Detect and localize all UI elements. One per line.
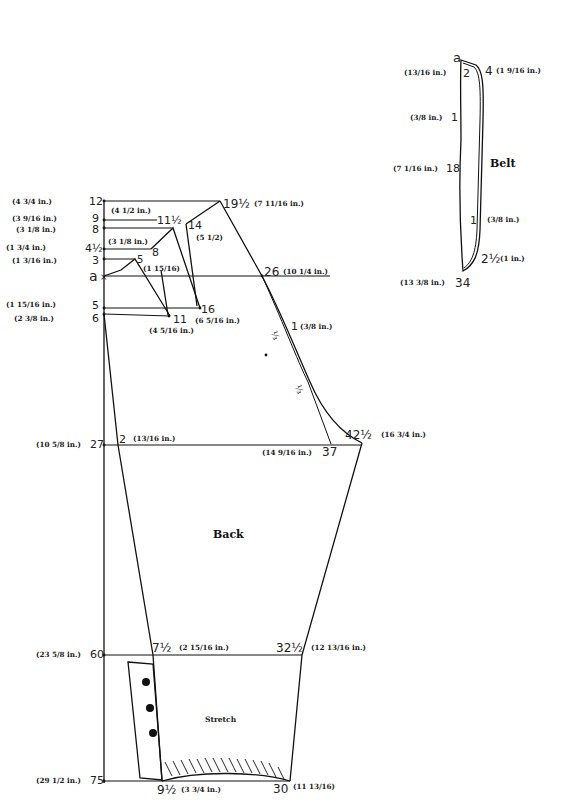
belt-point-a: a	[453, 50, 461, 65]
one-third-mark-1: ⅓	[269, 330, 281, 342]
back-title: Back	[213, 528, 244, 541]
scale-meas-60: (23 5/8 in.)	[36, 650, 81, 659]
belt-point-1-right: 1	[470, 214, 477, 227]
scale-num-a: a	[89, 268, 98, 284]
belt-point-2-5: 2½	[481, 252, 500, 266]
scale-num-8: 8	[92, 223, 99, 236]
outer-leg-seam	[290, 443, 362, 781]
point-19-5: 19½	[223, 197, 250, 211]
point-16: 16	[201, 303, 215, 316]
point-2-meas: (13/16 in.)	[133, 434, 175, 443]
point-11-5-meas: (4 1/2 in.)	[111, 206, 151, 215]
scale-meas-5: (1 15/16 in.)	[6, 300, 56, 309]
belt-point-2-5-meas: (1 in.)	[500, 254, 525, 263]
scale-meas-9: (3 9/16 in.)	[12, 214, 57, 223]
point-1: 1	[291, 320, 298, 333]
button-3	[149, 729, 157, 737]
scale-num-3: 3	[92, 254, 99, 267]
left-scale: (4 3/4 in.) 12 (3 9/16 in.) 9 (3 1/8 in.…	[6, 195, 104, 787]
scale-num-6: 6	[92, 312, 99, 325]
point-8: 8	[152, 246, 159, 259]
one-third-mark-2: ⅓	[293, 384, 305, 396]
scale-num-60: 60	[90, 648, 104, 661]
belt-point-18: 18	[446, 162, 460, 175]
point-14: 14	[188, 219, 202, 232]
stretch-label: Stretch	[205, 715, 237, 724]
point-8-meas: (3 1/8 in.)	[108, 237, 148, 246]
point-30-meas: (11 13/16)	[293, 782, 335, 791]
side-seam-guide	[262, 276, 331, 444]
belt-point-1-left: 1	[451, 111, 458, 124]
belt-piece: a 2 (13/16 in.) 4 (1 9/16 in.) 1 (3/8 in…	[393, 50, 541, 290]
scale-meas-27: (10 5/8 in.)	[36, 440, 81, 449]
point-26-meas: (10 1/4 in.)	[283, 267, 328, 276]
scale-num-75: 75	[90, 774, 104, 787]
scale-meas-12: (4 3/4 in.)	[12, 197, 52, 206]
sewing-pattern-diagram: × (4 3/4 in.) 12 (3 9/16 in.) 9 (3 1/8 i…	[0, 0, 581, 805]
scale-meas-75: (29 1/2 in.)	[36, 776, 81, 785]
belt-point-4: 4	[485, 64, 493, 78]
point-11-meas: (4 5/16 in.)	[149, 326, 194, 335]
point-7-5: 7½	[152, 641, 171, 655]
point-30: 30	[273, 782, 288, 796]
belt-point-2-meas: (13/16 in.)	[404, 68, 446, 77]
belt-point-34: 34	[455, 276, 470, 290]
belt-point-18-meas: (7 1/16 in.)	[393, 164, 438, 173]
point-11-5: 11½	[157, 214, 182, 227]
belt-point-1-left-meas: (3/8 in.)	[410, 113, 442, 122]
a-cross-mark: ×	[100, 272, 108, 282]
point-32-5-meas: (12 13/16 in.)	[311, 643, 366, 652]
point-9-5-meas: (3 3/4 in.)	[181, 785, 221, 794]
point-5-meas: (1 15/16)	[143, 264, 180, 273]
back-piece: × (4 3/4 in.) 12 (3 9/16 in.) 9 (3 1/8 i…	[6, 195, 426, 797]
point-42-5-meas: (16 3/4 in.)	[381, 430, 426, 439]
point-2: 2	[119, 433, 126, 446]
belt-point-2: 2	[463, 67, 470, 80]
line-6	[104, 314, 170, 316]
scale-meas-8: (3 1/8 in.)	[16, 225, 56, 234]
scale-num-12: 12	[89, 195, 103, 208]
scale-meas-6: (2 3/8 in.)	[14, 314, 54, 323]
point-32-5: 32½	[276, 641, 303, 655]
button-1	[142, 678, 150, 686]
belt-point-34-meas: (13 3/8 in.)	[400, 278, 445, 287]
point-19-5-meas: (7 11/16 in.)	[254, 199, 304, 208]
point-26: 26	[264, 265, 279, 279]
point-14-meas: (5 1/2)	[196, 233, 223, 242]
belt-inner-line	[463, 63, 480, 268]
point-16-meas: (6 5/16 in.)	[195, 316, 240, 325]
point-37-meas: (14 9/16 in.)	[262, 448, 312, 457]
point-7-5-meas: (2 15/16 in.)	[179, 643, 229, 652]
scale-num-5: 5	[92, 299, 99, 312]
belt-point-1-right-meas: (3/8 in.)	[487, 215, 519, 224]
belt-point-4-meas: (1 9/16 in.)	[496, 66, 541, 75]
button-2	[146, 704, 154, 712]
hem-line	[162, 773, 290, 781]
point-37: 37	[322, 445, 337, 459]
belt-title: Belt	[490, 157, 516, 170]
point-9-5: 9½	[157, 783, 176, 797]
scale-num-27: 27	[90, 438, 104, 451]
point-1-meas: (3/8 in.)	[300, 322, 332, 331]
point-11: 11	[173, 313, 187, 326]
point-42-5: 42½	[345, 428, 372, 442]
scale-meas-4-5: (1 3/4 in.)	[6, 243, 46, 252]
scale-meas-3: (1 3/16 in.)	[12, 256, 57, 265]
